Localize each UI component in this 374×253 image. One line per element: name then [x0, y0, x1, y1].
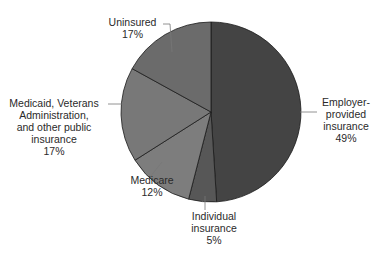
label-medicaid-va-public: Medicaid, Veterans Administration, and o…	[2, 97, 106, 157]
pie-slice-employer-provided-insurance	[211, 22, 301, 202]
value-medicare: 12%	[125, 186, 179, 198]
value-employer: 49%	[318, 132, 374, 144]
value-uninsured: 17%	[104, 28, 161, 40]
value-individual: 5%	[187, 234, 241, 246]
label-uninsured: Uninsured 17%	[104, 16, 161, 40]
label-medicare: Medicare 12%	[125, 174, 179, 198]
label-individual-insurance: Individual insurance 5%	[187, 210, 241, 246]
label-employer-provided-insurance: Employer- provided insurance 49%	[318, 96, 374, 144]
value-medicaid: 17%	[2, 145, 106, 157]
